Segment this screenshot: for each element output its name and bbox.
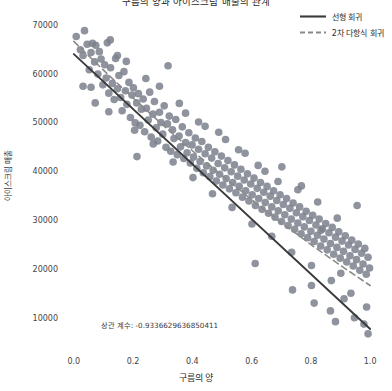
scatter-point [244,170,252,178]
scatter-point [317,227,325,235]
scatter-point [120,68,128,76]
scatter-point [141,128,149,136]
scatter-point [251,260,259,268]
scatter-point [242,187,250,195]
scatter-point [333,244,341,252]
scatter-point [366,264,374,272]
scatter-point [179,123,187,131]
x-tick-label: 1.0 [350,357,390,366]
scatter-point [346,252,354,260]
legend-line-dashed-icon [300,28,326,37]
scatter-point [195,118,203,126]
scatter-point [105,108,113,116]
scatter-point [308,282,316,290]
scatter-point [263,183,271,191]
scatter-point [255,195,263,203]
scatter-point [118,107,126,115]
scatter-point [201,123,209,131]
legend-label-polynomial: 2차 다항식 회귀 [332,27,384,38]
scatter-point [96,48,104,56]
scatter-point [169,158,177,166]
scatter-point [123,58,131,66]
scatter-point [227,168,235,176]
scatter-point [237,166,245,174]
scatter-point [254,162,262,170]
scatter-point [314,198,322,206]
scatter-point [261,167,269,175]
scatter-point [151,98,159,106]
scatter-point [131,126,139,134]
scatter-point [91,99,99,107]
scatter-point [218,152,226,160]
scatter-point [283,195,291,203]
scatter-point [221,164,229,172]
scatter-point [156,83,164,91]
y-tick-label: 70000 [12,21,58,30]
scatter-point [333,214,341,222]
scatter-point [234,172,242,180]
legend-item-linear: 선형 회귀 [300,11,384,22]
scatter-point [335,228,343,236]
x-tick-label: 0.2 [113,357,153,366]
scatter-point [231,161,239,169]
scatter-point [261,199,269,207]
scatter-point [364,253,372,261]
scatter-point [296,203,304,211]
scatter-chart: 구름의 양과 아이스크림 매출의 관계 아이스크림 매출 구름의 양 10000… [0,0,392,391]
scatter-point [224,157,232,165]
legend-line-solid-icon [300,12,326,21]
scatter-point [275,207,283,215]
scatter-point [353,202,361,210]
x-axis-label: 구름의 양 [0,371,392,384]
scatter-point [142,75,150,83]
scatter-point [79,83,87,91]
scatter-point [353,256,361,264]
scatter-point [250,174,258,182]
scatter-point [176,100,184,108]
scatter-point [105,89,113,97]
scatter-point [289,199,297,207]
scatter-point [257,179,265,187]
scatter-point [289,286,297,294]
scatter-point [355,240,363,248]
scatter-point [182,109,190,117]
y-tick-label: 40000 [12,167,58,176]
scatter-point [361,245,369,253]
scatter-point [310,299,318,307]
scatter-point [87,83,95,91]
scatter-point [189,174,197,182]
scatter-point [192,134,200,142]
scatter-point [307,228,315,236]
scatter-point [188,141,196,149]
scatter-point [205,144,213,152]
scatter-point [330,250,338,258]
scatter-point [72,33,80,41]
scatter-point [301,223,309,231]
scatter-point [172,116,180,124]
x-tick-label: 0.0 [54,357,94,366]
scatter-point [222,136,230,144]
scatter-point [276,191,284,199]
scatter-point [341,232,349,240]
scatter-point [133,153,141,161]
scatter-point [322,220,330,228]
y-tick-label: 50000 [12,118,58,127]
scatter-point [156,108,164,116]
scatter-point [320,235,328,243]
scatter-point [185,129,193,137]
legend-item-polynomial: 2차 다항식 회귀 [300,27,384,38]
scatter-point [348,236,356,244]
scatter-point [327,240,335,248]
correlation-annotation: 상관 계수: -0.9336629636850411 [101,320,219,330]
scatter-point [228,204,236,212]
scatter-point [364,330,372,338]
y-axis-ticks: 10000200003000040000500006000070000 [0,0,58,391]
scatter-point [337,270,345,278]
x-tick-label: 0.4 [172,357,212,366]
scatter-point [107,36,115,44]
scatter-point [340,248,348,256]
scatter-point [288,215,296,223]
scatter-point [214,160,222,168]
scatter-point [160,102,168,110]
scatter-point [298,182,306,190]
